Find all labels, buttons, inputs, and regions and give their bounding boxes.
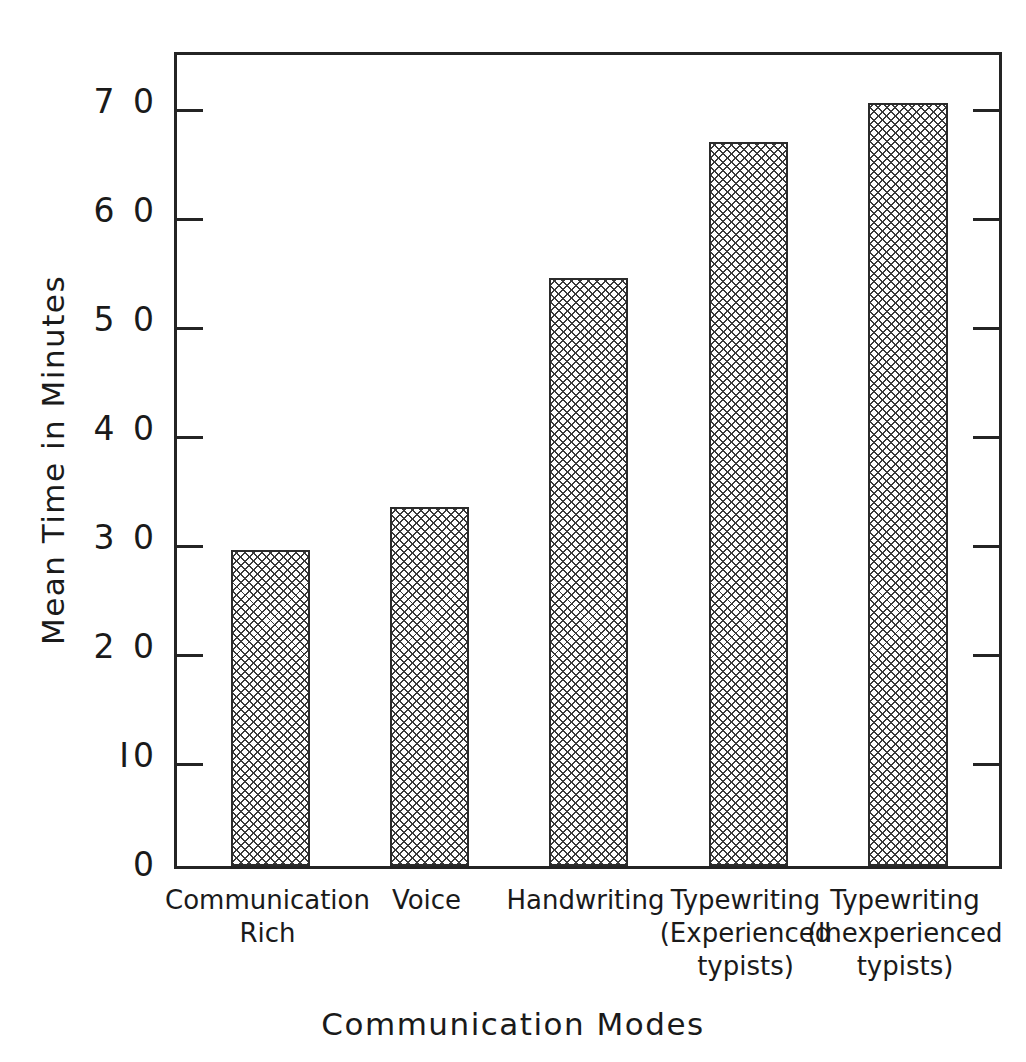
bar: [231, 550, 310, 866]
x-tick-label: Typewriting(Inexperiencedtypists): [795, 884, 1015, 983]
x-tick-label-line: (Inexperienced: [795, 917, 1015, 950]
plot-area: [174, 52, 1002, 869]
y-tick-label: 4 0: [40, 412, 158, 445]
x-tick-label-line: Rich: [158, 917, 378, 950]
x-tick-label-group: CommunicationRichVoiceHandwritingTypewri…: [0, 884, 1026, 994]
y-tick-label: 7 0: [40, 85, 158, 118]
chart-figure: Mean Time in Minutes 0I02 03 04 05 06 07…: [0, 0, 1026, 1062]
y-tick-label: 0: [40, 848, 158, 881]
bar: [390, 507, 469, 866]
bar: [709, 142, 788, 866]
bar-series: [177, 55, 999, 866]
x-tick-label-line: typists): [795, 950, 1015, 983]
y-tick-label: 5 0: [40, 303, 158, 336]
y-tick-label: I0: [40, 739, 158, 772]
x-axis-title: Communication Modes: [0, 1006, 1026, 1042]
y-tick-label: 3 0: [40, 521, 158, 554]
bar: [549, 278, 628, 866]
x-tick-label-line: Typewriting: [795, 884, 1015, 917]
bar: [868, 103, 948, 866]
y-tick-label: 2 0: [40, 630, 158, 663]
y-tick-label: 6 0: [40, 194, 158, 227]
